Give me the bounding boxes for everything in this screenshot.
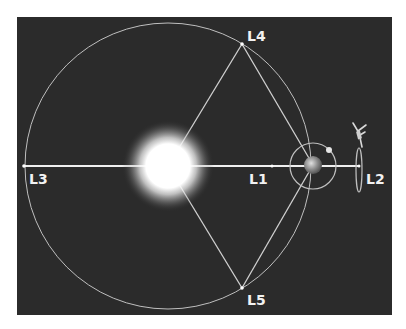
moon (326, 147, 332, 153)
earth (304, 156, 322, 174)
l5-point-marker (240, 286, 244, 290)
label-l5: L5 (247, 292, 266, 308)
label-l1: L1 (249, 171, 268, 187)
lagrange-points-diagram: L4 L5 L3 L1 L2 (0, 0, 406, 329)
l3-point-marker (22, 164, 26, 168)
label-l3: L3 (29, 171, 48, 187)
label-l2: L2 (366, 171, 385, 187)
label-l4: L4 (247, 28, 266, 44)
l4-point-marker (240, 42, 244, 46)
l1-point-marker (271, 165, 274, 168)
sun-core (146, 144, 190, 188)
l2-point-marker (358, 165, 361, 168)
